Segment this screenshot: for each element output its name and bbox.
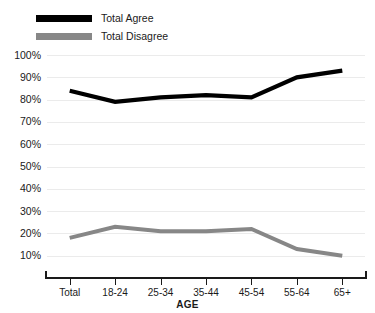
series-layer — [0, 0, 375, 313]
x-axis-tick — [251, 279, 252, 285]
x-axis-tick — [161, 279, 162, 285]
x-axis-tick — [297, 279, 298, 285]
x-axis-right-cap — [365, 271, 367, 279]
x-axis-tick — [342, 279, 343, 285]
x-axis-title: AGE — [0, 299, 375, 310]
x-axis-tick — [70, 279, 71, 285]
series-line-total-disagree — [70, 227, 343, 256]
x-axis-tick — [206, 279, 207, 285]
chart-container: Total Agree Total Disagree 100%90%80%70%… — [0, 0, 375, 313]
x-axis-tick — [115, 279, 116, 285]
x-axis-tick-label: 65+ — [312, 287, 372, 299]
series-line-total-agree — [70, 71, 343, 102]
